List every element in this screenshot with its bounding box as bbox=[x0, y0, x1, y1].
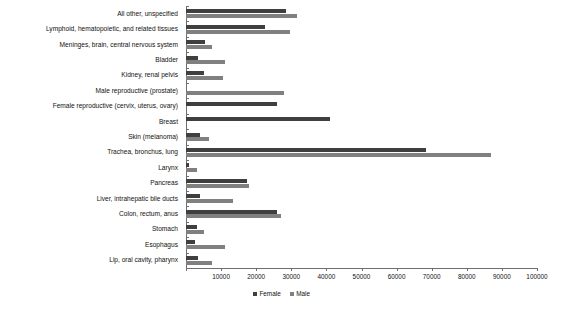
bar-female bbox=[186, 71, 204, 75]
category-label: Female reproductive (cervix, uterus, ova… bbox=[53, 102, 178, 109]
plot-area bbox=[186, 6, 537, 268]
bar-female bbox=[186, 163, 189, 167]
x-axis-label: 40000 bbox=[318, 273, 336, 280]
bar-female bbox=[186, 148, 426, 152]
x-axis-tick bbox=[397, 268, 398, 271]
x-axis-tick bbox=[537, 268, 538, 271]
category-label: Lip, oral cavity, pharynx bbox=[109, 256, 178, 263]
category-label: Esophagus bbox=[145, 241, 178, 248]
bar-male bbox=[186, 214, 281, 218]
x-axis-tick bbox=[432, 268, 433, 271]
x-axis-tick bbox=[291, 268, 292, 271]
bar-male bbox=[186, 168, 197, 172]
category-tick bbox=[186, 52, 189, 53]
x-axis-tick bbox=[256, 268, 257, 271]
category-label: Kidney, renal pelvis bbox=[121, 71, 178, 78]
bar-male bbox=[186, 230, 204, 234]
category-label: Meninges, brain, central nervous system bbox=[60, 41, 178, 48]
bar-female bbox=[186, 256, 198, 260]
category-label: Male reproductive (prostate) bbox=[96, 87, 178, 94]
bar-male bbox=[186, 45, 212, 49]
legend-label-female: Female bbox=[259, 290, 280, 297]
bar-female bbox=[186, 25, 265, 29]
x-axis-tick bbox=[221, 268, 222, 271]
legend-item-male: Male bbox=[290, 290, 310, 297]
x-axis-label: 60000 bbox=[388, 273, 406, 280]
category-label: Stomach bbox=[152, 225, 178, 232]
category-tick bbox=[186, 6, 189, 7]
bar-male bbox=[186, 91, 284, 95]
x-axis-label: 30000 bbox=[282, 273, 300, 280]
category-label: Liver, intrahepatic bile ducts bbox=[97, 195, 178, 202]
bar-female bbox=[186, 210, 277, 214]
category-tick bbox=[186, 176, 189, 177]
bar-female bbox=[186, 225, 197, 229]
category-tick bbox=[186, 253, 189, 254]
bar-male bbox=[186, 261, 212, 265]
bar-female bbox=[186, 40, 205, 44]
bar-female bbox=[186, 194, 200, 198]
legend-label-male: Male bbox=[296, 290, 310, 297]
category-tick bbox=[186, 206, 189, 207]
category-tick bbox=[186, 37, 189, 38]
category-label: Skin (melanoma) bbox=[128, 133, 178, 140]
category-tick bbox=[186, 191, 189, 192]
category-label: Colon, rectum, anus bbox=[119, 210, 178, 217]
x-axis-label: 10000 bbox=[212, 273, 230, 280]
legend-swatch-male-icon bbox=[290, 292, 294, 296]
category-axis-labels: All other, unspecifiedLymphoid, hematopo… bbox=[0, 6, 182, 268]
category-tick bbox=[186, 114, 189, 115]
x-axis-label: 90000 bbox=[493, 273, 511, 280]
bar-chart: All other, unspecifiedLymphoid, hematopo… bbox=[0, 0, 563, 311]
x-axis-tick bbox=[326, 268, 327, 271]
bar-male bbox=[186, 76, 223, 80]
category-tick bbox=[186, 21, 189, 22]
category-tick bbox=[186, 129, 189, 130]
bar-female bbox=[186, 133, 200, 137]
bar-female bbox=[186, 102, 277, 106]
category-tick bbox=[186, 68, 189, 69]
category-label: Trachea, bronchus, lung bbox=[107, 148, 178, 155]
x-axis-label: 20000 bbox=[247, 273, 265, 280]
bar-female bbox=[186, 9, 286, 13]
category-tick bbox=[186, 268, 189, 269]
bar-male bbox=[186, 199, 233, 203]
x-axis-label: 80000 bbox=[458, 273, 476, 280]
category-tick bbox=[186, 222, 189, 223]
category-tick bbox=[186, 145, 189, 146]
x-axis-tick bbox=[467, 268, 468, 271]
category-label: All other, unspecified bbox=[117, 10, 178, 17]
x-axis-label: 50000 bbox=[353, 273, 371, 280]
bar-male bbox=[186, 14, 297, 18]
category-label: Bladder bbox=[155, 56, 178, 63]
category-label: Breast bbox=[159, 118, 178, 125]
category-tick bbox=[186, 237, 189, 238]
bar-male bbox=[186, 153, 491, 157]
bar-male bbox=[186, 30, 290, 34]
legend-item-female: Female bbox=[253, 290, 281, 297]
bar-male bbox=[186, 137, 209, 141]
category-label: Lymphoid, hematopoietic, and related tis… bbox=[46, 25, 178, 32]
category-tick bbox=[186, 98, 189, 99]
chart-legend: Female Male bbox=[0, 290, 563, 297]
bar-male bbox=[186, 184, 249, 188]
bar-female bbox=[186, 56, 198, 60]
bar-male bbox=[186, 60, 225, 64]
x-axis-tick bbox=[362, 268, 363, 271]
category-label: Larynx bbox=[158, 164, 178, 171]
bar-female bbox=[186, 240, 195, 244]
category-tick bbox=[186, 83, 189, 84]
category-tick bbox=[186, 160, 189, 161]
x-axis-label: 100000 bbox=[526, 273, 547, 280]
bar-female bbox=[186, 117, 330, 121]
legend-swatch-female-icon bbox=[253, 292, 257, 296]
bar-male bbox=[186, 245, 225, 249]
x-axis-tick bbox=[502, 268, 503, 271]
category-label: Pancreas bbox=[150, 179, 178, 186]
x-axis-label: 70000 bbox=[423, 273, 441, 280]
bar-female bbox=[186, 179, 247, 183]
